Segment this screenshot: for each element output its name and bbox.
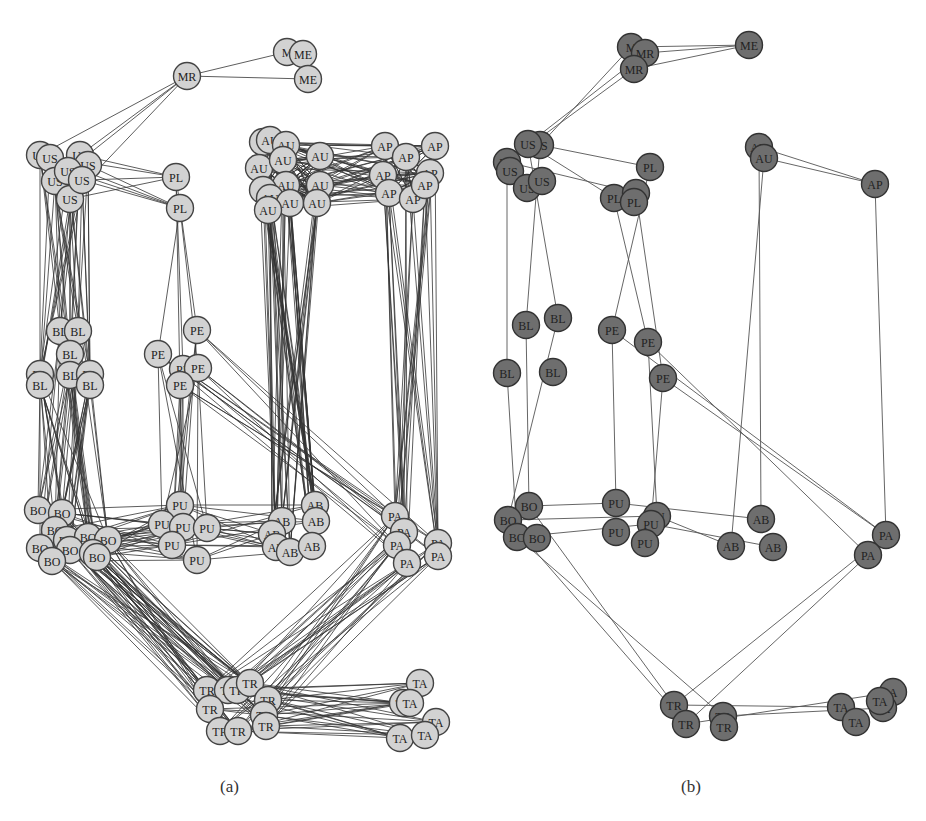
node-label: ME bbox=[294, 48, 312, 62]
node-label: PL bbox=[169, 171, 183, 185]
node-label: BL bbox=[545, 366, 560, 380]
edge bbox=[674, 535, 886, 705]
node-label: BL bbox=[32, 379, 47, 393]
node-label: AU bbox=[274, 154, 292, 168]
network-node: TA bbox=[412, 722, 439, 749]
node-label: BO bbox=[44, 555, 61, 569]
edge bbox=[612, 330, 616, 503]
node-label: US bbox=[502, 165, 517, 179]
network-node: AP bbox=[376, 180, 403, 207]
node-label: AB bbox=[765, 541, 782, 555]
node-label: PE bbox=[190, 324, 204, 338]
node-label: AU bbox=[311, 150, 329, 164]
edge bbox=[875, 184, 886, 535]
network-node: TA bbox=[867, 688, 894, 715]
node-label: PL bbox=[173, 202, 187, 216]
node-label: BO bbox=[521, 500, 538, 514]
network-node: PA bbox=[855, 542, 882, 569]
network-node: AB bbox=[303, 508, 330, 535]
panel-a-nodes: MRMMEMEUSUSUSUSUSUSUSUSPLPLAAUAUAUAUAUAU… bbox=[25, 39, 452, 752]
network-node: TA bbox=[397, 690, 424, 717]
network-figure: MRMMEMEUSUSUSUSUSUSUSUSPLPLAAUAUAUAUAUAU… bbox=[0, 0, 926, 821]
node-label: PA bbox=[861, 549, 876, 563]
node-label: TR bbox=[716, 721, 731, 735]
node-label: AU bbox=[755, 152, 773, 166]
node-label: AP bbox=[867, 178, 883, 192]
node-label: PE bbox=[656, 372, 670, 386]
node-label: US bbox=[42, 152, 57, 166]
node-label: MR bbox=[625, 63, 644, 77]
edge bbox=[187, 52, 287, 76]
node-label: PU bbox=[164, 539, 180, 553]
node-label: TR bbox=[678, 718, 693, 732]
node-label: PA bbox=[431, 550, 446, 564]
network-node: AU bbox=[751, 145, 778, 172]
network-node: AP bbox=[412, 172, 439, 199]
network-node: PU bbox=[603, 490, 630, 517]
node-label: PL bbox=[607, 192, 621, 206]
network-node: TR bbox=[673, 711, 700, 738]
node-label: US bbox=[534, 175, 549, 189]
node-label: BL bbox=[499, 367, 514, 381]
edge bbox=[264, 545, 397, 715]
node-label: BL bbox=[70, 325, 85, 339]
network-node: BO bbox=[39, 548, 66, 575]
node-label: MR bbox=[178, 70, 197, 84]
node-label: TR bbox=[230, 725, 245, 739]
edge bbox=[197, 330, 397, 545]
network-node: US bbox=[515, 131, 542, 158]
network-node: BO bbox=[84, 544, 111, 571]
network-node: MR bbox=[174, 63, 201, 90]
edge bbox=[237, 545, 397, 690]
network-node: AB bbox=[718, 533, 745, 560]
node-label: PE bbox=[641, 336, 655, 350]
node-label: TA bbox=[872, 695, 887, 709]
network-node: AU bbox=[307, 143, 334, 170]
network-node: PU bbox=[159, 532, 186, 559]
network-node: PU bbox=[632, 530, 659, 557]
node-label: AU bbox=[281, 197, 299, 211]
node-label: US bbox=[520, 138, 535, 152]
network-node: PU bbox=[184, 547, 211, 574]
node-label: PU bbox=[154, 518, 170, 532]
edge bbox=[540, 145, 650, 167]
node-label: AB bbox=[308, 515, 325, 529]
network-node: PE bbox=[167, 372, 194, 399]
edge bbox=[198, 368, 207, 528]
network-node: PU bbox=[194, 515, 221, 542]
network-node: BL bbox=[540, 359, 567, 386]
panel-b-nodes: MMRMRMEUSUSUSUSUSUSPLPLPLPLAUAUAPBLBLBLB… bbox=[494, 32, 907, 741]
network-node: TR bbox=[711, 714, 738, 741]
node-label: AP bbox=[381, 187, 397, 201]
node-label: AP bbox=[417, 179, 433, 193]
network-node: PE bbox=[635, 329, 662, 356]
node-label: PA bbox=[400, 557, 415, 571]
network-node: PL bbox=[167, 195, 194, 222]
node-label: BL bbox=[62, 348, 77, 362]
edge bbox=[517, 537, 723, 716]
node-label: ME bbox=[740, 39, 758, 53]
node-label: TA bbox=[848, 716, 863, 730]
network-node: TA bbox=[843, 709, 870, 736]
node-label: AB bbox=[304, 540, 321, 554]
edge bbox=[70, 550, 210, 709]
edge bbox=[764, 158, 875, 184]
node-label: TA bbox=[402, 697, 417, 711]
network-node: TA bbox=[387, 725, 414, 752]
node-label: AB bbox=[753, 513, 770, 527]
network-node: PE bbox=[184, 317, 211, 344]
network-node: MR bbox=[621, 56, 648, 83]
network-node: ME bbox=[736, 32, 763, 59]
node-label: PE bbox=[173, 379, 187, 393]
node-label: AP bbox=[427, 140, 443, 154]
network-node: US bbox=[69, 167, 96, 194]
network-node: BL bbox=[513, 312, 540, 339]
network-node: AP bbox=[862, 171, 889, 198]
network-node: PL bbox=[621, 189, 648, 216]
network-node: AB bbox=[748, 506, 775, 533]
network-node: AU bbox=[304, 190, 331, 217]
network-node: PL bbox=[163, 164, 190, 191]
network-node: AP bbox=[422, 133, 449, 160]
edge bbox=[40, 76, 187, 155]
node-label: TR bbox=[202, 703, 217, 717]
